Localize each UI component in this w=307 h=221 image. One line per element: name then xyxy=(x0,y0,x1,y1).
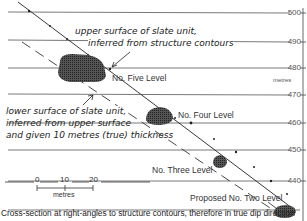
axis-tick-500: 500 xyxy=(288,8,301,17)
upper-surface-annotation-2: inferred from structure contours xyxy=(88,38,234,50)
ore-body-five-level xyxy=(58,54,106,82)
axis-tick-470: 470 xyxy=(288,90,301,99)
axis-unit-label: metres xyxy=(273,77,291,83)
axis-tick-460: 460 xyxy=(288,118,301,127)
level-label-three: No. Three Level xyxy=(152,165,212,175)
scale-tick-0: 0 xyxy=(35,175,39,184)
lower-surface-annotation-1: lower surface of slate unit, xyxy=(6,106,126,118)
axis-tick-480: 480 xyxy=(288,63,301,72)
ore-body-four-level xyxy=(146,107,173,125)
scale-unit: metres xyxy=(53,191,74,198)
scale-tick-10: 10 xyxy=(60,175,69,184)
level-label-four: No. Four Level xyxy=(178,110,234,120)
scale-tick-20: 20 xyxy=(89,175,98,184)
axis-tick-440: 440 xyxy=(288,176,301,185)
scale-bar xyxy=(5,182,150,191)
lower-surface-annotation-3: and given 10 metres (true) thickness xyxy=(6,130,173,142)
axis-tick-490: 490 xyxy=(288,37,301,46)
upper-surface-annotation-1: upper surface of slate unit, xyxy=(75,26,197,38)
lower-surface-annotation-2: inferred from upper surface xyxy=(6,118,131,130)
axis-tick-450: 450 xyxy=(288,145,301,154)
caption: Cross-section at right-angles to structu… xyxy=(1,208,295,218)
level-label-five: No. Five Level xyxy=(112,73,166,83)
level-label-two: Proposed No. Two Level xyxy=(190,193,282,203)
ore-body-three-level xyxy=(213,155,227,168)
